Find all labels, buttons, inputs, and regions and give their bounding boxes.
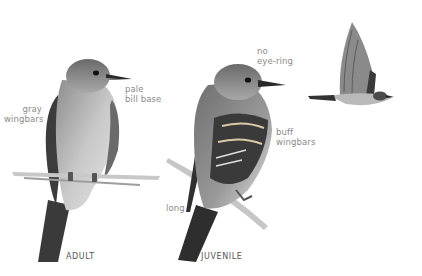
caption-juvenile: JUVENILE (201, 252, 242, 262)
annotation-line: wingbars (4, 114, 42, 124)
juvenile-head (214, 64, 262, 100)
annotation-line: eye-ring (257, 56, 293, 66)
adult-head (66, 59, 110, 93)
annotation-line: bill base (125, 94, 161, 104)
annotation-line: buff (276, 127, 315, 137)
flying-bird-wing (340, 22, 372, 98)
flying-bird-tail (308, 95, 336, 101)
annotation-line: no (257, 46, 293, 56)
adult-eye (93, 71, 99, 76)
bird-illustrations (0, 0, 422, 276)
annotation-buff-wingbars: buff wingbars (276, 127, 315, 147)
adult-body (56, 80, 118, 210)
flying-bird (308, 22, 394, 105)
caption-adult: ADULT (66, 252, 95, 262)
annotation-gray-wingbars: gray wingbars (4, 104, 42, 124)
annotation-long: long (166, 203, 185, 213)
annotation-line: pale (125, 84, 161, 94)
juvenile-eye (245, 77, 251, 82)
illustration-stage: gray wingbars pale bill base ADULT no ey… (0, 0, 422, 276)
annotation-no-eye-ring: no eye-ring (257, 46, 293, 66)
annotation-line: wingbars (276, 137, 315, 147)
annotation-pale-bill-base: pale bill base (125, 84, 161, 104)
annotation-line: gray (4, 104, 42, 114)
juvenile-bill (258, 80, 286, 87)
juvenile-bird (166, 64, 286, 262)
